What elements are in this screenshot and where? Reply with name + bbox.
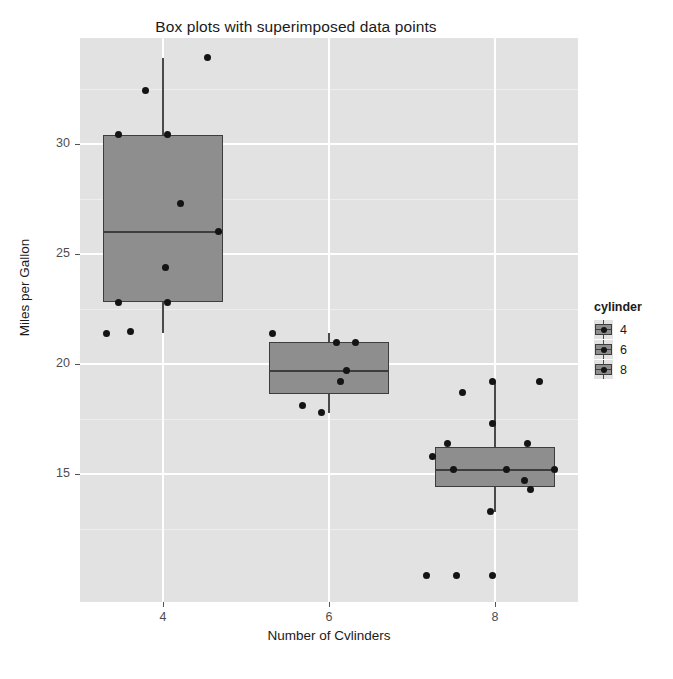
- data-point: [127, 328, 134, 335]
- data-point: [352, 339, 359, 346]
- x-axis-tick-label: 4: [143, 610, 183, 624]
- legend-item-label: 4: [620, 323, 627, 337]
- data-point: [103, 330, 110, 337]
- y-axis-tickmark: [75, 144, 80, 145]
- whisker-lower: [494, 487, 496, 511]
- x-axis-tick-label: 8: [475, 610, 515, 624]
- data-point: [459, 389, 466, 396]
- whisker-lower: [328, 394, 330, 413]
- legend-title: cylinder: [594, 300, 670, 314]
- plot-panel: [80, 38, 578, 602]
- data-point: [489, 572, 496, 579]
- y-axis-tick-label: 30: [36, 136, 70, 150]
- legend-items: 468: [594, 320, 670, 379]
- gridline-major-vertical: [328, 38, 330, 602]
- box-plot-median-line: [103, 231, 223, 233]
- legend-item[interactable]: 8: [594, 360, 670, 379]
- whisker-upper: [328, 333, 330, 342]
- data-point: [204, 54, 211, 61]
- y-axis-tick-label: 15: [36, 466, 70, 480]
- data-point: [299, 402, 306, 409]
- y-axis-tickmark: [75, 364, 80, 365]
- x-axis-tickmark: [495, 602, 496, 607]
- whisker-lower: [162, 302, 164, 333]
- data-point: [333, 339, 340, 346]
- x-axis-title: Number of Cvlinders: [80, 628, 578, 643]
- data-point: [527, 486, 534, 493]
- data-point: [429, 453, 436, 460]
- box-plot-box: [103, 135, 223, 302]
- data-point: [318, 409, 325, 416]
- legend-key-icon: [594, 360, 613, 379]
- page-title: Box plots with superimposed data points: [0, 18, 592, 36]
- y-axis: 15202530: [28, 38, 80, 602]
- x-axis: 468: [80, 602, 578, 630]
- data-point: [489, 378, 496, 385]
- legend-key-icon: [594, 320, 613, 339]
- legend-item-label: 8: [620, 363, 627, 377]
- y-axis-tick-label: 25: [36, 246, 70, 260]
- y-axis-tickmark: [75, 474, 80, 475]
- box-plot-box: [269, 342, 389, 394]
- y-axis-tickmark: [75, 254, 80, 255]
- data-point: [536, 378, 543, 385]
- legend-item[interactable]: 4: [594, 320, 670, 339]
- data-point: [444, 440, 451, 447]
- data-point: [164, 299, 171, 306]
- x-axis-tickmark: [329, 602, 330, 607]
- gridline-major-vertical: [494, 38, 496, 602]
- y-axis-title: Miles per Gallon: [17, 188, 32, 388]
- y-axis-tick-label: 20: [36, 356, 70, 370]
- box-plot-median-line: [269, 370, 389, 372]
- x-axis-tick-label: 6: [309, 610, 349, 624]
- legend-item[interactable]: 6: [594, 340, 670, 359]
- data-point: [487, 508, 494, 515]
- chart-figure: Box plots with superimposed data points …: [0, 0, 673, 679]
- x-axis-tickmark: [163, 602, 164, 607]
- legend-key-icon: [594, 340, 613, 359]
- data-point: [450, 466, 457, 473]
- data-point: [269, 330, 276, 337]
- whisker-upper: [494, 382, 496, 447]
- legend: cylinder 468: [594, 300, 670, 380]
- legend-item-label: 6: [620, 343, 627, 357]
- data-point: [453, 572, 460, 579]
- data-point: [115, 299, 122, 306]
- data-point: [489, 420, 496, 427]
- data-point: [423, 572, 430, 579]
- data-point: [142, 87, 149, 94]
- whisker-upper: [162, 58, 164, 135]
